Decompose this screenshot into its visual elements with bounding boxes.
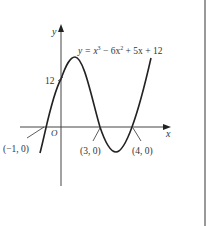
cubic-graph: y x O 12 y = x3 − 6x2 + 5x + 12 (−1, 0) … bbox=[0, 0, 209, 226]
equation-label: y = x3 − 6x2 + 5x + 12 bbox=[77, 45, 163, 56]
y-intercept-label: 12 bbox=[45, 76, 55, 86]
equation-mid: − 6x bbox=[101, 46, 121, 56]
y-axis-label: y bbox=[51, 26, 57, 37]
equation-prefix: y = x bbox=[77, 46, 98, 56]
equation-suffix: + 5x + 12 bbox=[123, 46, 162, 56]
root-label-4: (4, 0) bbox=[132, 146, 153, 157]
y-axis bbox=[58, 24, 64, 186]
leader-line-root-1 bbox=[27, 127, 44, 138]
root-label-neg1: (−1, 0) bbox=[3, 144, 29, 155]
x-axis-label: x bbox=[165, 128, 171, 139]
root-label-3: (3, 0) bbox=[80, 146, 101, 157]
y-axis-arrow-icon bbox=[58, 24, 64, 32]
leader-line-root-2 bbox=[93, 128, 100, 141]
origin-label: O bbox=[51, 128, 58, 138]
leader-line-root-3 bbox=[133, 128, 141, 141]
cubic-curve bbox=[40, 57, 151, 153]
x-axis bbox=[20, 124, 171, 130]
